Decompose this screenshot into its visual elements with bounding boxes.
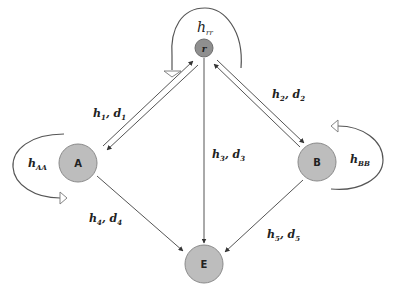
edge-b-e xyxy=(225,180,303,252)
edge-r-a xyxy=(103,61,198,150)
node-label-b: B xyxy=(313,157,321,168)
label-h-rr: hrr xyxy=(197,19,213,37)
node-e: E xyxy=(185,245,223,283)
node-a: A xyxy=(59,144,97,182)
open-arrowhead-icon xyxy=(60,192,67,204)
label-edge-b-e: h5, d5 xyxy=(267,228,300,243)
edge-r-b xyxy=(214,60,304,147)
node-label-a: A xyxy=(74,158,82,169)
label-edge-r-a: h1, d1 xyxy=(93,107,126,122)
state-diagram: r A B E hrr hAA hBB h1, d1 h2, d2 h3, d3… xyxy=(0,0,397,287)
open-arrowhead-icon xyxy=(164,71,181,77)
label-h-aa: hAA xyxy=(28,157,47,172)
label-edge-r-e: h3, d3 xyxy=(212,148,245,163)
node-r: r xyxy=(195,39,213,57)
label-h-bb: hBB xyxy=(350,153,370,168)
label-edge-r-b: h2, d2 xyxy=(272,88,305,103)
label-edge-a-e: h4, d4 xyxy=(89,212,122,227)
node-label-e: E xyxy=(201,259,208,270)
open-arrowhead-icon xyxy=(331,120,338,132)
node-b: B xyxy=(298,143,336,181)
